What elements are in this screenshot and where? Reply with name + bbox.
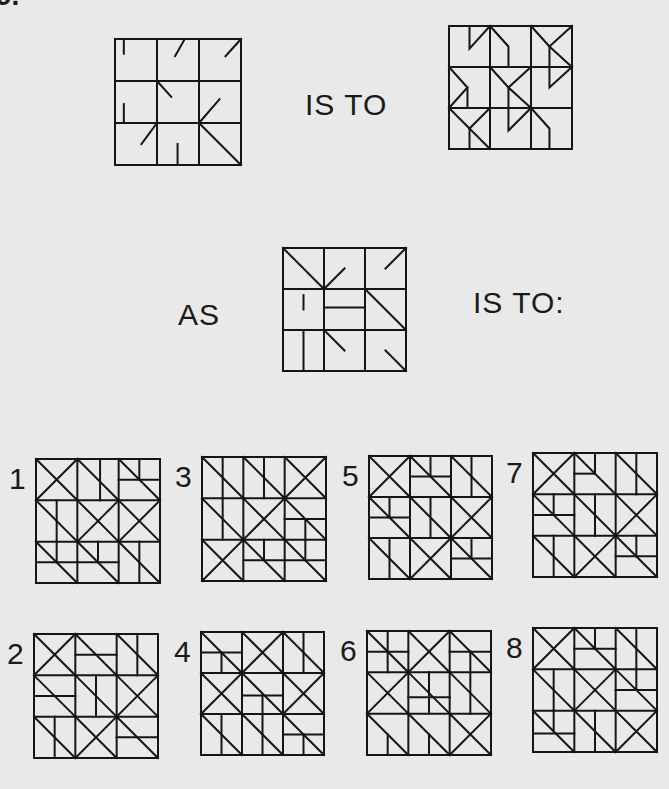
- option-number-5: 5: [342, 461, 359, 491]
- answer-option-2[interactable]: [33, 633, 159, 759]
- connector-as: AS: [178, 300, 220, 330]
- option-number-1: 1: [9, 464, 26, 494]
- answer-option-4[interactable]: [200, 631, 325, 756]
- figure-a: [114, 38, 242, 166]
- option-number-4: 4: [174, 637, 191, 667]
- figure-c: [282, 247, 407, 372]
- answer-option-1[interactable]: [35, 458, 161, 584]
- answer-option-7[interactable]: [532, 452, 658, 578]
- answer-option-3[interactable]: [201, 456, 327, 582]
- option-number-6: 6: [340, 636, 357, 666]
- answer-option-8[interactable]: [532, 627, 658, 753]
- figure-b: [448, 25, 573, 150]
- answer-option-5[interactable]: [368, 455, 493, 580]
- option-number-8: 8: [506, 633, 523, 663]
- option-number-7: 7: [506, 458, 523, 488]
- question-number-fragment: 9.: [0, 0, 19, 12]
- option-number-3: 3: [175, 462, 192, 492]
- connector-is-to: IS TO: [305, 90, 387, 120]
- connector-is-to-colon: IS TO:: [473, 288, 565, 318]
- answer-option-6[interactable]: [366, 630, 492, 756]
- option-number-2: 2: [7, 639, 24, 669]
